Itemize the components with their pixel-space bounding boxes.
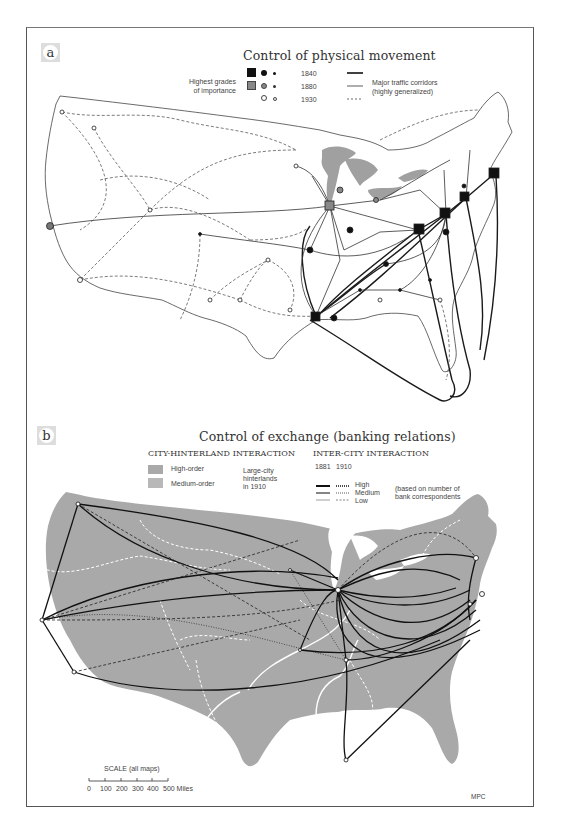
credit: MPC bbox=[471, 792, 485, 801]
scale-tick-500: 500 Miles bbox=[163, 784, 193, 793]
scale-bar bbox=[0, 0, 561, 834]
scale-tick-200: 200 bbox=[116, 784, 128, 793]
scale-tick-0: 0 bbox=[87, 784, 91, 793]
scale-tick-300: 300 bbox=[132, 784, 144, 793]
scale-tick-400: 400 bbox=[147, 784, 159, 793]
scale-tick-100: 100 bbox=[100, 784, 112, 793]
